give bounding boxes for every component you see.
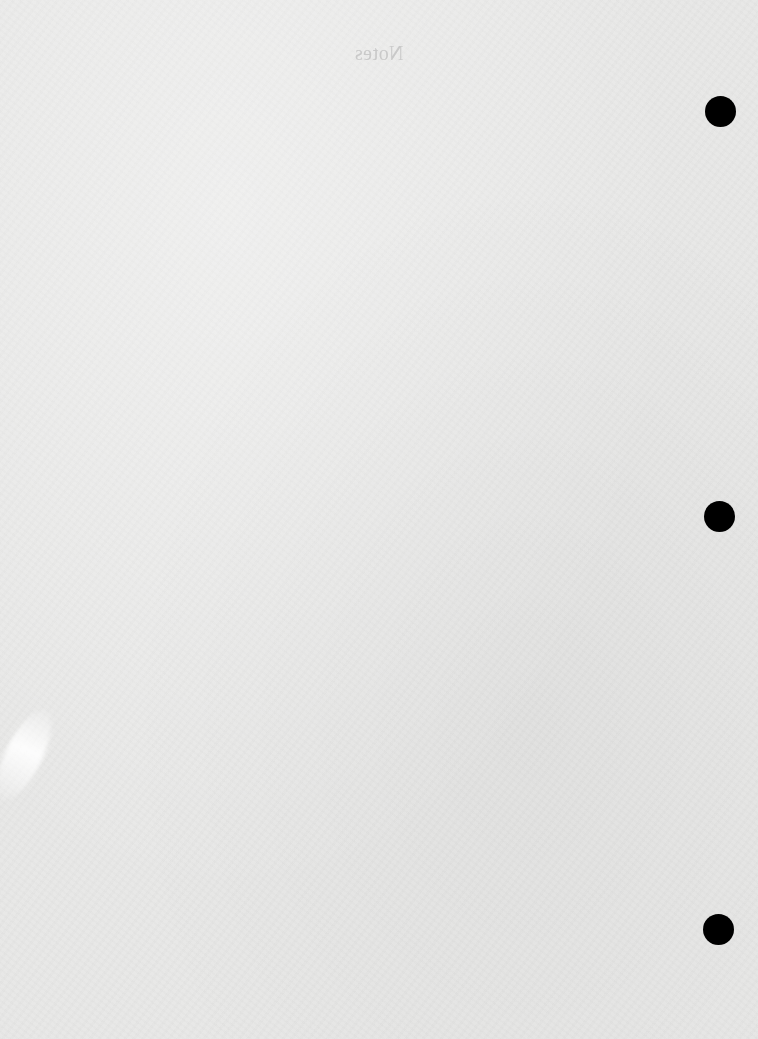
punch-hole-middle <box>704 501 735 532</box>
punch-hole-bottom <box>703 914 734 945</box>
punch-hole-top <box>705 96 736 127</box>
scan-glare <box>0 710 62 800</box>
page-heading: Notes <box>0 42 758 65</box>
notebook-page: Notes <box>0 0 758 1039</box>
